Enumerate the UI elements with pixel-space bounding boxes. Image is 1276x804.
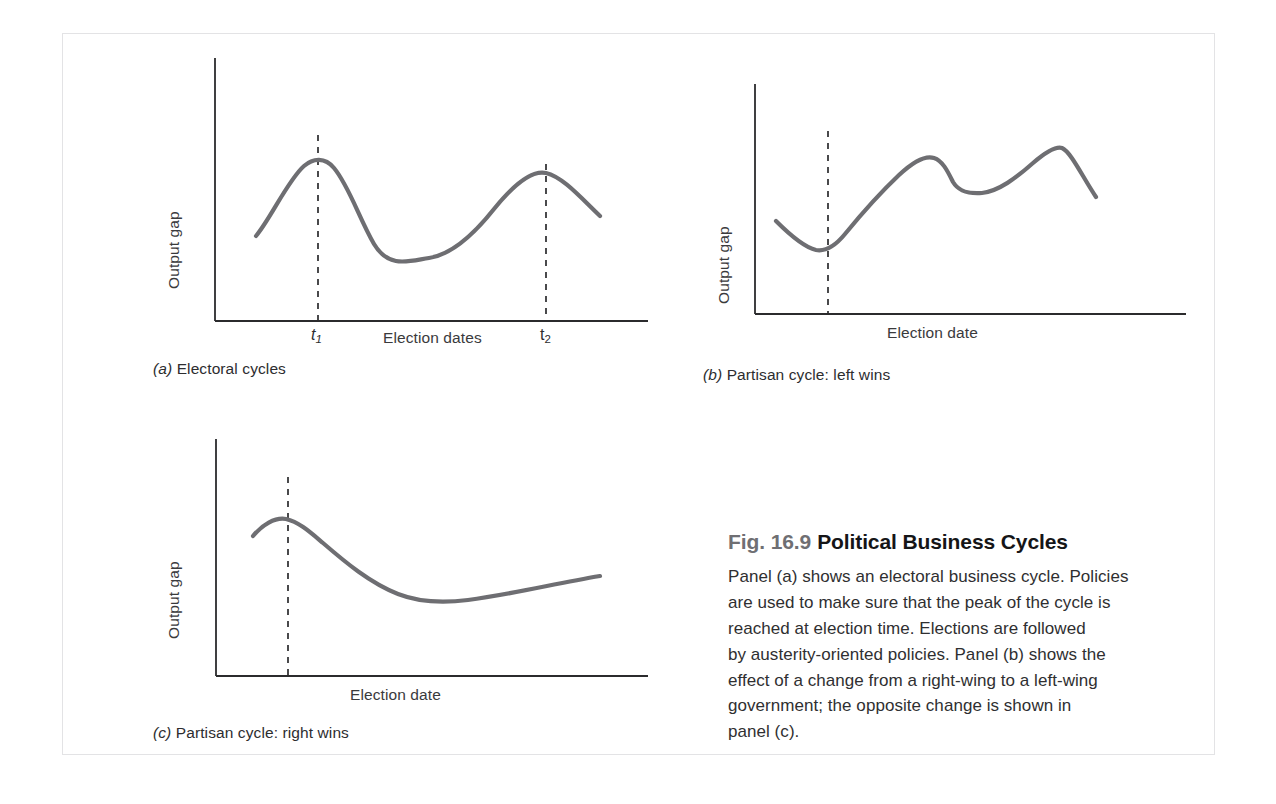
chart-panel-b: Output gap Election date (b) Partisan cy… <box>703 84 1203 414</box>
panel-caption-b: (b) Partisan cycle: left wins <box>703 366 890 384</box>
panel-caption-c-text: Partisan cycle: right wins <box>176 724 349 741</box>
panel-caption-a-text: Electoral cycles <box>177 360 286 377</box>
caption-line: panel (c). <box>728 722 799 741</box>
caption-line: Panel (a) shows an electoral business cy… <box>728 567 1128 586</box>
figure-caption-body: Panel (a) shows an electoral business cy… <box>728 564 1248 745</box>
tick-label-t2: t2 <box>540 326 551 344</box>
caption-line: government; the opposite change is shown… <box>728 696 1071 715</box>
x-axis-label-b: Election date <box>887 324 978 342</box>
panel-caption-a-prefix: (a) <box>153 360 172 377</box>
figure-title-text: Political Business Cycles <box>817 530 1068 553</box>
chart-panel-c: Output gap Election date (c) Partisan cy… <box>153 439 683 759</box>
caption-line: reached at election time. Elections are … <box>728 619 1086 638</box>
panel-caption-c: (c) Partisan cycle: right wins <box>153 724 349 742</box>
output-gap-curve-b <box>776 148 1096 251</box>
figure-root: Output gap t1 t2 Election dates (a) Elec… <box>0 0 1276 804</box>
panel-caption-b-prefix: (b) <box>703 366 722 383</box>
output-gap-curve-a <box>256 160 600 262</box>
figure-caption-block: Fig. 16.9Political Business Cycles Panel… <box>728 529 1248 745</box>
caption-line: effect of a change from a right-wing to … <box>728 671 1098 690</box>
output-gap-curve-c <box>253 519 600 602</box>
caption-line: by austerity-oriented policies. Panel (b… <box>728 645 1106 664</box>
figure-frame: Output gap t1 t2 Election dates (a) Elec… <box>62 33 1215 755</box>
panel-caption-c-prefix: (c) <box>153 724 171 741</box>
panel-caption-a: (a) Electoral cycles <box>153 360 286 378</box>
plot-area-a <box>153 58 683 368</box>
x-axis-label-c: Election date <box>350 686 441 704</box>
figure-number: Fig. 16.9 <box>728 530 811 553</box>
caption-line: are used to make sure that the peak of t… <box>728 593 1110 612</box>
figure-caption-title: Fig. 16.9Political Business Cycles <box>728 529 1248 555</box>
panel-caption-b-text: Partisan cycle: left wins <box>727 366 891 383</box>
chart-panel-a: Output gap t1 t2 Election dates (a) Elec… <box>153 58 683 408</box>
tick-label-t1: t1 <box>311 326 322 344</box>
x-axis-label-a: Election dates <box>383 329 482 347</box>
